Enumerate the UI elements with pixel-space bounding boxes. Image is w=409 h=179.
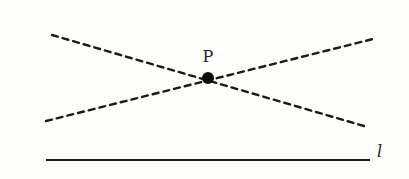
diagram-canvas: P l [0, 0, 409, 179]
point-label: P [203, 47, 214, 66]
point-p [202, 72, 214, 84]
line-label: l [377, 142, 382, 161]
